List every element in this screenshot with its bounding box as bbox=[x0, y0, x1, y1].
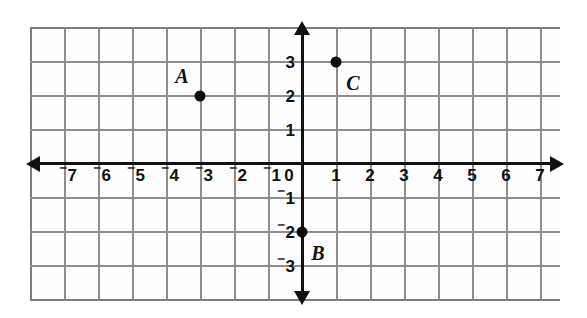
negative-sign: ⁻ bbox=[277, 218, 285, 235]
y-tick-label: ⁻3 bbox=[277, 257, 295, 274]
negative-sign: ⁻ bbox=[127, 162, 135, 179]
y-axis-up-arrow-icon bbox=[294, 21, 310, 35]
x-tick-label: ⁻5 bbox=[127, 167, 145, 184]
tick-value: 4 bbox=[433, 166, 442, 185]
y-tick-label: ⁻2 bbox=[277, 223, 295, 240]
negative-sign: ⁻ bbox=[277, 184, 285, 201]
data-point-c bbox=[331, 56, 342, 67]
gridline-horizontal bbox=[30, 129, 560, 131]
x-tick-label: ⁻4 bbox=[161, 167, 179, 184]
gridline-horizontal bbox=[30, 95, 560, 97]
tick-value: 3 bbox=[286, 52, 295, 71]
tick-value: 2 bbox=[365, 166, 374, 185]
negative-sign: ⁻ bbox=[277, 252, 285, 269]
tick-value: 3 bbox=[286, 256, 295, 275]
tick-value: 3 bbox=[399, 166, 408, 185]
tick-value: 1 bbox=[272, 166, 281, 185]
tick-value: 2 bbox=[286, 86, 295, 105]
point-label-c: C bbox=[346, 73, 359, 93]
y-axis-line bbox=[301, 33, 304, 295]
tick-value: 1 bbox=[331, 166, 340, 185]
x-axis-right-arrow-icon bbox=[550, 156, 564, 172]
grid-plot-area: ⁻7⁻6⁻5⁻4⁻3⁻2⁻101234567 321⁻1⁻2⁻3 ABC bbox=[30, 27, 560, 300]
gridline-horizontal bbox=[30, 197, 560, 199]
x-tick-label: 6 bbox=[501, 167, 510, 184]
gridline-horizontal bbox=[30, 265, 560, 267]
y-tick-label: ⁻1 bbox=[277, 189, 295, 206]
x-tick-label: 2 bbox=[365, 167, 374, 184]
x-tick-label: ⁻3 bbox=[195, 167, 213, 184]
negative-sign: ⁻ bbox=[229, 162, 237, 179]
tick-value: 5 bbox=[136, 166, 145, 185]
tick-value: 2 bbox=[286, 222, 295, 241]
data-point-b bbox=[297, 226, 308, 237]
negative-sign: ⁻ bbox=[195, 162, 203, 179]
tick-value: 4 bbox=[170, 166, 179, 185]
tick-value: 5 bbox=[467, 166, 476, 185]
gridline-horizontal bbox=[30, 61, 560, 63]
data-point-a bbox=[195, 90, 206, 101]
x-tick-label: 5 bbox=[467, 167, 476, 184]
y-tick-label: 3 bbox=[286, 53, 295, 70]
tick-value: 6 bbox=[501, 166, 510, 185]
negative-sign: ⁻ bbox=[59, 162, 67, 179]
point-label-a: A bbox=[175, 66, 188, 86]
negative-sign: ⁻ bbox=[161, 162, 169, 179]
gridline-horizontal bbox=[30, 231, 560, 233]
tick-value: 6 bbox=[102, 166, 111, 185]
x-tick-label: ⁻6 bbox=[93, 167, 111, 184]
tick-value: 3 bbox=[204, 166, 213, 185]
tick-value: 2 bbox=[238, 166, 247, 185]
tick-value: 1 bbox=[286, 120, 295, 139]
x-tick-label: 4 bbox=[433, 167, 442, 184]
x-tick-label: ⁻2 bbox=[229, 167, 247, 184]
y-axis-down-arrow-icon bbox=[294, 291, 310, 305]
tick-value: 7 bbox=[535, 166, 544, 185]
y-tick-label: 1 bbox=[286, 121, 295, 138]
x-tick-label: 7 bbox=[535, 167, 544, 184]
x-tick-label: ⁻1 bbox=[263, 167, 281, 184]
tick-value: 1 bbox=[286, 188, 295, 207]
tick-value: 0 bbox=[284, 166, 293, 185]
y-tick-label: 2 bbox=[286, 87, 295, 104]
x-axis-line bbox=[38, 162, 552, 165]
x-axis-left-arrow-icon bbox=[26, 156, 40, 172]
x-tick-label: ⁻7 bbox=[59, 167, 77, 184]
x-tick-label: 0 bbox=[284, 167, 293, 184]
tick-value: 7 bbox=[68, 166, 77, 185]
point-label-b: B bbox=[311, 243, 324, 263]
x-tick-label: 1 bbox=[331, 167, 340, 184]
negative-sign: ⁻ bbox=[263, 162, 271, 179]
x-tick-label: 3 bbox=[399, 167, 408, 184]
coordinate-plane-figure: ⁻7⁻6⁻5⁻4⁻3⁻2⁻101234567 321⁻1⁻2⁻3 ABC bbox=[0, 0, 587, 318]
negative-sign: ⁻ bbox=[93, 162, 101, 179]
